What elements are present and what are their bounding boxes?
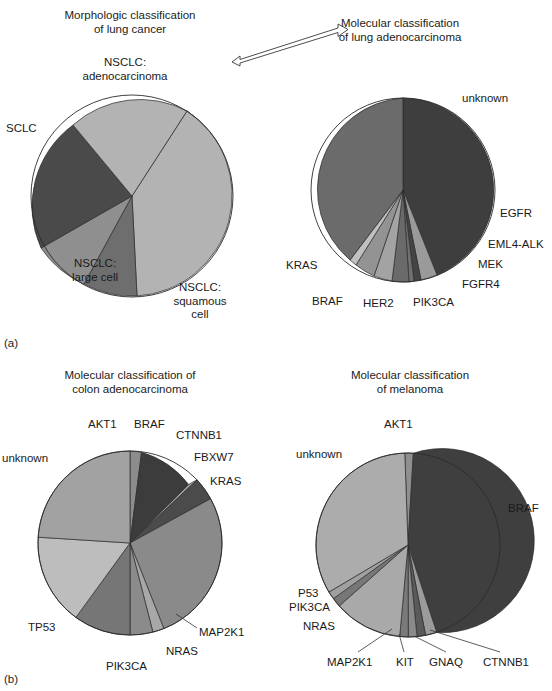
label-melanoma-nras: NRAS [303, 620, 351, 634]
pie-molecular-melanoma [280, 350, 552, 691]
label-lungadeno-pik3ca: PIK3CA [413, 296, 468, 310]
label-melanoma-kit: KIT [396, 656, 426, 670]
label-lungadeno-fgfr4: FGFR4 [462, 278, 512, 292]
label-colon-ctnnb1: CTNNB1 [176, 429, 238, 443]
label-melanoma-pik3ca: PIK3CA [289, 601, 344, 615]
label-colon-kras: KRAS [210, 475, 260, 489]
label-colon-nras: NRAS [166, 645, 214, 659]
label-colon-braf: BRAF [134, 418, 179, 432]
label-melanoma-gnaq: GNAQ [429, 656, 477, 670]
pie-slices-lung-adeno [311, 98, 495, 282]
label-lungadeno-egfr: EGFR [500, 207, 550, 221]
label-melanoma-akt1: AKT1 [384, 418, 429, 432]
label-lungadeno-eml4-alk: EML4-ALK [488, 238, 552, 252]
label-melanoma-braf: BRAF [508, 502, 552, 516]
leader-gnaq-melanoma [414, 636, 446, 652]
label-lungadeno-her2: HER2 [363, 297, 408, 311]
panel-label-a: (a) [4, 337, 18, 349]
leader-ctnnb1-melanoma [430, 630, 500, 652]
label-melanoma-unknown: unknown [296, 448, 358, 462]
label-colon-tp53: TP53 [28, 621, 73, 635]
label-lungadeno-kras: KRAS [286, 259, 331, 273]
label-colon-map2k1: MAP2K1 [199, 626, 261, 640]
label-lungadeno-unknown: unknown [462, 92, 532, 106]
label-colon-akt1: AKT1 [88, 418, 133, 432]
label-colon-pik3ca: PIK3CA [106, 660, 161, 674]
pie-molecular-lung-adenocarcinoma [0, 0, 552, 350]
figure-root: Morphologic classification of lung cance… [0, 0, 552, 691]
pie-molecular-colon-adenocarcinoma [0, 350, 290, 691]
label-colon-fbxw7: FBXW7 [194, 451, 249, 465]
label-lungadeno-mek: MEK [478, 258, 523, 272]
label-melanoma-map2k1: MAP2K1 [327, 656, 389, 670]
label-lungadeno-braf: BRAF [312, 295, 357, 309]
label-melanoma-ctnnb1: CTNNB1 [483, 656, 545, 670]
label-melanoma-p53: P53 [298, 587, 333, 601]
pie-slices-colon [38, 451, 222, 635]
label-colon-unknown: unknown [2, 452, 64, 466]
panel-label-b: (b) [4, 673, 18, 685]
leader-map2k1-melanoma [358, 629, 392, 652]
